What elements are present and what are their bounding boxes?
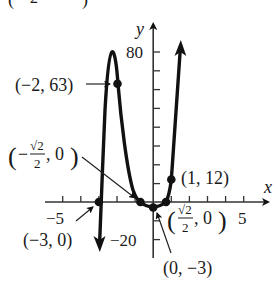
y-tick-label-neg20: −20 <box>110 231 137 250</box>
svg-text:): ) <box>82 0 88 10</box>
top-text-fragment: ( 2 ) <box>8 0 88 10</box>
callout-arrows <box>76 84 171 253</box>
point-negroot2-0 <box>136 198 145 207</box>
polynomial-graph: ( 2 ) x −5 5 <box>0 0 279 285</box>
svg-text:2: 2 <box>34 156 41 171</box>
label-root2-0: ( √2 2 , 0 ) <box>167 202 227 235</box>
label-1-12: (1, 12) <box>181 168 229 189</box>
point-0-neg3 <box>149 203 158 212</box>
svg-text:(: ( <box>167 206 176 235</box>
svg-text:√2: √2 <box>30 138 44 153</box>
x-tick-label-neg5: −5 <box>46 209 64 228</box>
svg-text:2: 2 <box>30 0 38 6</box>
svg-text:−: − <box>18 144 28 164</box>
y-tick-label-80: 80 <box>126 43 143 62</box>
svg-text:√2: √2 <box>178 202 192 217</box>
label-neg3-0: (−3, 0) <box>23 230 72 251</box>
svg-text:): ) <box>218 206 227 235</box>
svg-text:(: ( <box>8 0 14 10</box>
y-axis-label: y <box>134 19 144 39</box>
svg-text:2: 2 <box>182 220 189 235</box>
point-1-12 <box>167 175 176 184</box>
point-neg2-63 <box>113 80 122 89</box>
point-root2-0 <box>162 198 171 207</box>
label-negroot2-0: ( − √2 2 , 0 ) <box>8 138 79 171</box>
label-0-neg3: (0, −3) <box>163 258 212 279</box>
point-neg3-0 <box>95 198 104 207</box>
y-axis: y 80 −20 <box>110 19 160 258</box>
svg-text:, 0: , 0 <box>46 144 64 164</box>
label-neg2-63: (−2, 63) <box>15 75 73 96</box>
svg-text:, 0: , 0 <box>194 208 212 228</box>
x-tick-label-5: 5 <box>238 209 247 228</box>
svg-text:(: ( <box>8 142 17 171</box>
x-axis-label: x <box>263 177 272 197</box>
svg-text:): ) <box>70 142 79 171</box>
